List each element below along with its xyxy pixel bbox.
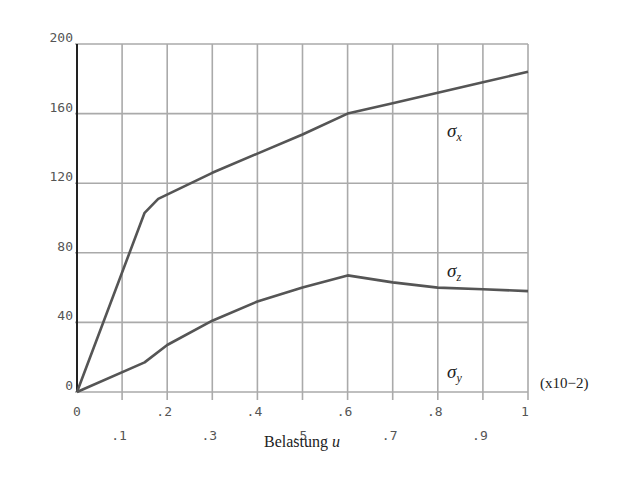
- y-tick-label: 80: [57, 239, 73, 254]
- x-tick-label: .6: [337, 404, 353, 419]
- y-tick-label: 40: [57, 308, 73, 323]
- y-tick-label: 160: [50, 100, 73, 115]
- chart-grid: [75, 44, 528, 400]
- y-tick-label: 0: [65, 378, 73, 393]
- x-scale-note: (x10−2): [540, 375, 588, 392]
- x-tick-label: .8: [427, 404, 443, 419]
- series-label-sigma-y: σy: [447, 361, 462, 385]
- stress-load-chart: 040801201602000.1.2.3.4.5.6.7.8.91 σxσzσ…: [0, 0, 626, 483]
- x-tick-label: 1: [521, 404, 529, 419]
- series-label-sigma-z: σz: [447, 260, 461, 284]
- series-label-sigma-x: σx: [447, 120, 462, 144]
- x-tick-label: .1: [111, 428, 127, 443]
- y-tick-label: 200: [50, 30, 73, 45]
- y-tick-label: 120: [50, 169, 73, 184]
- x-tick-label: 0: [73, 404, 81, 419]
- x-tick-label: .7: [382, 428, 398, 443]
- x-tick-label: .2: [156, 404, 172, 419]
- x-tick-label: .4: [247, 404, 263, 419]
- x-tick-label: .9: [472, 428, 488, 443]
- x-axis-label: Belastung u: [264, 433, 340, 451]
- x-tick-label: .3: [201, 428, 217, 443]
